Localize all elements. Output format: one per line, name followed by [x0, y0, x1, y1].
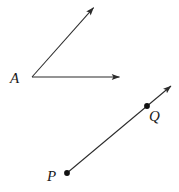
geometry-figure-canvas: A P Q [0, 0, 179, 192]
point-p-dot [64, 170, 70, 176]
point-label-q: Q [149, 109, 160, 124]
geometry-drawing [0, 0, 179, 192]
ray-a-diagonal [32, 8, 94, 77]
vertex-label-a: A [10, 71, 19, 86]
ray-pq-shaft [67, 86, 171, 173]
point-label-p: P [47, 169, 56, 184]
